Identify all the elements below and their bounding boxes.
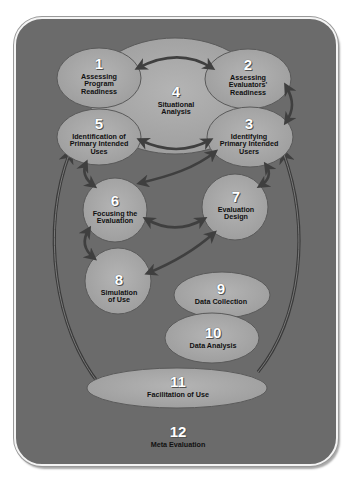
node-1-line-3: Readiness xyxy=(81,88,117,96)
flow-diagram xyxy=(0,0,353,484)
edge-3-7 xyxy=(260,165,269,186)
node-5-line-3: Uses xyxy=(70,148,129,156)
node-8[interactable]: 8 Simulation of Use xyxy=(101,272,138,304)
node-3-number: 3 xyxy=(220,116,279,132)
node-3[interactable]: 3 Identifying Primary Intended Users xyxy=(220,116,279,155)
node-8-line-2: of Use xyxy=(101,296,138,304)
node-4-line-2: Analysis xyxy=(158,108,195,116)
node-6-line-2: Evaluation xyxy=(93,217,138,225)
node-4[interactable]: 4 Situational Analysis xyxy=(158,84,195,116)
node-4-number: 4 xyxy=(158,84,195,100)
edge-3-6 xyxy=(140,152,215,183)
edge-6-7 xyxy=(146,219,204,227)
node-9-line-1: Data Collection xyxy=(195,298,247,306)
node-1-number: 1 xyxy=(81,56,117,72)
edge-7-8 xyxy=(148,233,214,273)
edge-5-6 xyxy=(84,163,94,186)
node-7-line-2: Design xyxy=(218,213,254,221)
node-10[interactable]: 10 Data Analysis xyxy=(190,325,237,349)
node-10-line-1: Data Analysis xyxy=(190,342,237,350)
node-11-line-1: Facilitation of Use xyxy=(147,391,209,399)
node-7[interactable]: 7 Evaluation Design xyxy=(218,189,254,221)
node-11[interactable]: 11 Facilitation of Use xyxy=(147,374,209,398)
node-9-number: 9 xyxy=(195,281,247,297)
node-6-number: 6 xyxy=(93,193,138,209)
node-7-number: 7 xyxy=(218,189,254,205)
node-8-number: 8 xyxy=(101,272,138,288)
node-1[interactable]: 1 Assessing Program Readiness xyxy=(81,56,117,95)
node-9[interactable]: 9 Data Collection xyxy=(195,281,247,305)
node-11-number: 11 xyxy=(147,374,209,390)
node-6[interactable]: 6 Focusing the Evaluation xyxy=(93,193,138,225)
edge-11-to-3 xyxy=(258,152,299,372)
node-12[interactable]: 12 Meta Evaluation xyxy=(151,424,206,448)
node-12-line-1: Meta Evaluation xyxy=(151,441,206,449)
node-2-number: 2 xyxy=(229,57,267,73)
node-2-line-3: Readiness xyxy=(229,89,267,97)
node-12-number: 12 xyxy=(151,424,206,440)
node-5-number: 5 xyxy=(70,116,129,132)
node-2[interactable]: 2 Assessing Evaluators' Readiness xyxy=(229,57,267,96)
node-5[interactable]: 5 Identification of Primary Intended Use… xyxy=(70,116,129,155)
node-10-number: 10 xyxy=(190,325,237,341)
node-3-line-3: Users xyxy=(220,148,279,156)
